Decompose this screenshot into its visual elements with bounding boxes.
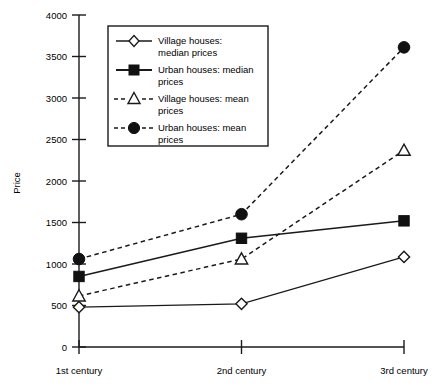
- x-category-label-3rd: 3rd century: [380, 365, 428, 376]
- y-tick-label-3000: 3000: [46, 93, 67, 104]
- y-tick-label-500: 500: [51, 300, 67, 311]
- legend-label-line1: Urban houses: median: [158, 64, 254, 75]
- data-point-filled-circle: [73, 253, 85, 265]
- data-point-filled-square: [236, 233, 246, 243]
- x-category-label-2nd: 2nd century: [217, 365, 267, 376]
- filled-square-icon: [129, 65, 139, 75]
- legend-label-line2: prices: [158, 76, 184, 87]
- legend-label-line1: Village houses: mean: [158, 93, 249, 104]
- legend-label-line2: prices: [158, 105, 184, 116]
- y-tick-label-0: 0: [62, 342, 67, 353]
- y-tick-label-3500: 3500: [46, 51, 67, 62]
- legend: Village houses: median prices Urban hous…: [108, 26, 268, 146]
- y-tick-label-1000: 1000: [46, 259, 67, 270]
- chart-canvas: 4000 3500 3000 2500 2000 1500 1000 500 0…: [0, 0, 441, 388]
- legend-label-line1: Urban houses: mean: [158, 122, 246, 133]
- data-point-filled-square: [399, 216, 409, 226]
- y-tick-label-1500: 1500: [46, 217, 67, 228]
- y-tick-label-2500: 2500: [46, 134, 67, 145]
- y-tick-label-2000: 2000: [46, 176, 67, 187]
- y-tick-label-4000: 4000: [46, 10, 67, 21]
- line-chart: 4000 3500 3000 2500 2000 1500 1000 500 0…: [0, 0, 441, 388]
- legend-label-line1: Village houses:: [158, 35, 222, 46]
- data-point-filled-circle: [236, 208, 248, 220]
- legend-label-line2: median prices: [158, 47, 217, 58]
- data-point-filled-circle: [398, 42, 410, 54]
- data-point-filled-square: [74, 271, 84, 281]
- x-category-label-1st: 1st century: [56, 365, 103, 376]
- filled-circle-icon: [128, 122, 139, 133]
- y-axis-title: Price: [11, 172, 22, 194]
- legend-label-line2: prices: [158, 134, 184, 145]
